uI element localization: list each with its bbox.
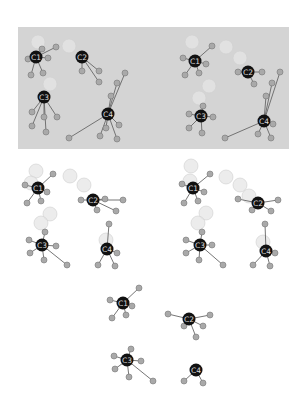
leaf-node [113,208,119,214]
cluster-bottom-c4: C4 [181,364,206,387]
leaf-node [259,69,265,75]
node-label: C4 [102,245,112,254]
node-label: C4 [191,366,201,375]
leaf-node [138,358,144,364]
cluster-mid-right-c4: C4 [250,221,278,269]
node-label: C1 [190,57,200,66]
leaf-node [44,189,50,195]
ghost-node [233,178,247,192]
leaf-node [128,346,134,352]
leaf-node [112,263,118,269]
cluster-top-right-c1: C1 [180,35,233,78]
leaf-node [122,70,128,76]
leaf-node [275,197,281,203]
node-label: C2 [253,199,263,208]
leaf-node [102,196,108,202]
cluster-mid-left-c3: C3 [26,207,70,268]
leaf-node [50,171,56,177]
ghost-node [184,159,198,173]
leaf-node [207,312,213,318]
leaf-node [269,80,275,86]
leaf-node [79,68,85,74]
leaf-node [129,303,135,309]
node-label: C3 [37,241,47,250]
leaf-node [108,93,114,99]
leaf-node [22,182,28,188]
leaf-node [201,189,207,195]
leaf-node [181,200,187,206]
leaf-node [109,315,115,321]
leaf-node [200,103,206,109]
leaf-node [96,68,102,74]
leaf-node [186,125,192,131]
ghost-node [185,35,199,49]
cluster-diagram: C1C2C3C4C1C2C3C4C1C2C3C4C1C2C3C4C1C2C3C4 [0,0,303,402]
ghost-node [233,51,247,65]
leaf-node [222,135,228,141]
ghost-node [62,39,76,53]
leaf-node [277,69,283,75]
node-label: C2 [243,68,253,77]
node-label: C4 [261,247,271,256]
leaf-node [64,262,70,268]
cluster-top-right-c4: C4 [222,69,283,141]
ghost-node [191,216,205,230]
leaf-node [207,171,213,177]
leaf-node [186,111,192,117]
leaf-node [209,242,215,248]
ghost-node [34,216,48,230]
cluster-top-left-c2: C2 [62,39,102,85]
leaf-node [78,197,84,203]
leaf-node [200,380,206,386]
leaf-node [199,130,205,136]
node-label: C1 [188,184,198,193]
leaf-node [29,109,35,115]
leaf-node [45,55,51,61]
leaf-node [203,61,209,67]
node-label: C1 [33,184,43,193]
leaf-node [114,80,120,86]
node-label: C1 [118,299,128,308]
leaf-node [66,135,72,141]
leaf-node [42,229,48,235]
cluster-mid-left-c2: C2 [63,169,126,214]
cluster-mid-left-c1: C1 [22,164,56,206]
leaf-node [193,334,199,340]
leaf-node [200,323,206,329]
leaf-node [40,70,46,76]
leaf-node [96,79,102,85]
leaf-node [262,221,268,227]
node-label: C3 [196,112,206,121]
leaf-node [41,114,47,120]
leaf-node [136,285,142,291]
node-label: C4 [103,110,113,119]
leaf-node [150,378,156,384]
leaf-node [94,207,100,213]
cluster-bottom-c2: C2 [165,311,213,340]
cluster-mid-right-c2: C2 [219,170,281,214]
leaf-node [53,44,59,50]
ghost-node [219,40,233,54]
node-label: C3 [122,356,132,365]
leaf-node [53,243,59,249]
leaf-node [251,81,257,87]
leaf-node [97,133,103,139]
leaf-node [114,136,120,142]
leaf-node [199,229,205,235]
cluster-mid-right-c3: C3 [183,206,226,268]
leaf-node [235,69,241,75]
cluster-mid-right-c1: C1 [179,159,213,206]
leaf-node [183,237,189,243]
leaf-node [26,237,32,243]
leaf-node [195,198,201,204]
leaf-node [103,125,109,131]
leaf-node [270,121,276,127]
leaf-node [250,262,256,268]
leaf-node [196,257,202,263]
cluster-top-left-c1: C1 [25,35,59,78]
node-label: C4 [259,117,269,126]
ghost-node [219,170,233,184]
node-label: C3 [195,241,205,250]
leaf-node [24,200,30,206]
leaf-node [196,70,202,76]
